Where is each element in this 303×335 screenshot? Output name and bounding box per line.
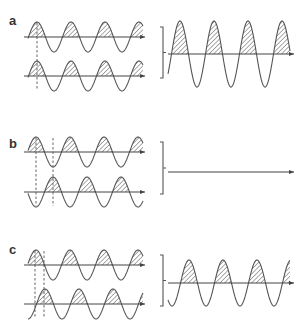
arrowhead-icon — [289, 281, 294, 285]
panel-label-c: c — [9, 242, 16, 257]
arrowhead-icon — [289, 52, 294, 56]
hatched-positive-lobes — [28, 137, 143, 152]
panel-label-b: b — [9, 136, 17, 151]
hatched-positive-lobes — [28, 250, 143, 265]
wave-interference-diagram: abc — [0, 0, 303, 335]
panel-label-a: a — [9, 13, 17, 28]
sum-bracket — [160, 27, 166, 78]
hatched-positive-lobes — [29, 61, 144, 76]
hatched-positive-lobes — [29, 22, 144, 37]
sum-bracket — [160, 255, 166, 306]
hatched-positive-lobes — [45, 177, 131, 192]
hatched-positive-lobes — [172, 21, 291, 54]
arrowhead-icon — [289, 170, 294, 174]
arrowhead-icon — [140, 190, 145, 194]
sum-bracket — [160, 142, 166, 194]
